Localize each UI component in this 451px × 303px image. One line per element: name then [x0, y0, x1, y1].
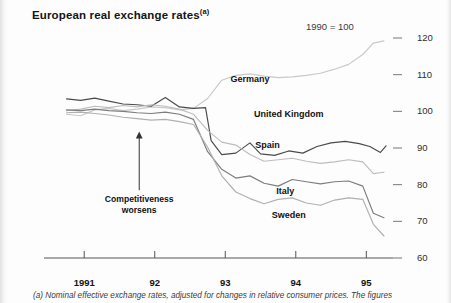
series-line-sweden [67, 112, 384, 236]
x-axis-label: 93 [220, 277, 231, 288]
series-label-italy: Italy [276, 186, 294, 196]
y-axis-label: 110 [417, 69, 432, 80]
x-axis-label: 92 [149, 277, 160, 288]
series-label-united-kingdom: United Kingdom [254, 109, 324, 119]
page-title-footnote-marker: (a) [200, 7, 210, 16]
page-title-text: European real exchange rates [32, 9, 200, 21]
chart-page: European real exchange rates(a) 1990 = 1… [0, 0, 451, 303]
y-axis-label: 90 [417, 142, 428, 153]
y-axis-label: 60 [417, 252, 428, 263]
y-axis-label: 80 [417, 179, 428, 190]
series-label-germany: Germany [230, 74, 269, 84]
series-line-spain [67, 105, 384, 174]
competitiveness-arrow-head [136, 132, 143, 139]
annotation-line-2: worsens [122, 205, 157, 215]
chart-footnote: (a) Nominal effective exchange rates, ad… [33, 291, 443, 301]
annotation-line-1: Competitiveness [105, 194, 174, 204]
y-axis-label: 70 [417, 215, 428, 226]
x-axis-label: 1991 [74, 277, 95, 288]
chart-plot-area [36, 30, 404, 270]
page-title: European real exchange rates(a) [32, 7, 209, 21]
x-axis-label: 94 [290, 277, 301, 288]
series-label-sweden: Sweden [272, 210, 306, 220]
competitiveness-annotation: Competitivenessworsens [105, 194, 174, 216]
series-label-spain: Spain [255, 140, 280, 150]
line-chart-svg [36, 30, 404, 270]
y-axis-label: 100 [417, 105, 433, 116]
y-axis-label: 120 [417, 32, 433, 43]
x-axis-label: 95 [361, 277, 372, 288]
series-line-germany [67, 41, 384, 116]
series-line-united-kingdom [67, 97, 386, 155]
